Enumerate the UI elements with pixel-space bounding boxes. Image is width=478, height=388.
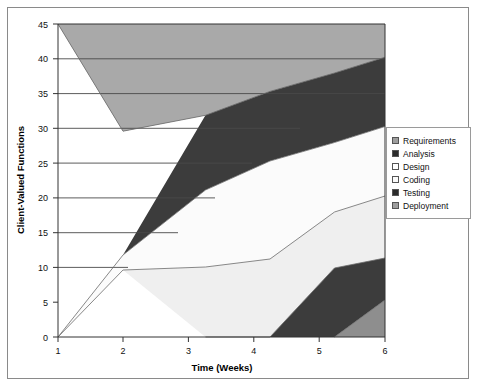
legend-label: Analysis [403,149,435,159]
legend-label: Design [403,162,429,172]
legend-swatch-icon [392,202,399,209]
y-tick-label: 5 [43,298,48,308]
legend-label: Deployment [403,201,448,211]
x-tick-label: 6 [382,346,387,356]
y-tick-label: 20 [38,193,48,203]
y-tick-label: 35 [38,89,48,99]
legend-swatch-icon [392,150,399,157]
legend-label: Requirements [403,136,456,146]
y-axis-tick-labels: 45 40 35 30 25 20 15 10 5 0 [38,20,48,343]
y-axis-title: Client-Valued Functions [15,126,26,234]
legend-item-requirements[interactable]: Requirements [392,135,466,146]
x-tick-label: 2 [120,346,125,356]
y-tick-label: 25 [38,159,48,169]
x-axis-tick-labels: 1 2 3 4 5 6 [55,346,387,356]
legend-item-testing[interactable]: Testing [392,187,466,198]
x-tick-label: 1 [55,346,60,356]
legend-swatch-icon [392,176,399,183]
x-axis-title: Time (Weeks) [192,362,253,373]
y-tick-label: 45 [38,20,48,30]
x-tick-label: 4 [251,346,256,356]
y-tick-label: 30 [38,124,48,134]
legend-item-analysis[interactable]: Analysis [392,148,466,159]
legend-swatch-icon [392,189,399,196]
chart-series-group [58,24,385,337]
x-tick-label: 5 [317,346,322,356]
legend-item-coding[interactable]: Coding [392,174,466,185]
legend-swatch-icon [392,137,399,144]
legend-item-deployment[interactable]: Deployment [392,200,466,211]
y-tick-label: 15 [38,228,48,238]
legend-label: Coding [403,175,430,185]
y-tick-label: 10 [38,263,48,273]
x-axis-ticks [58,337,385,342]
y-axis-ticks [53,24,58,337]
chart-legend: Requirements Analysis Design Coding Test… [386,127,471,219]
y-tick-label: 0 [43,333,48,343]
legend-swatch-icon [392,163,399,170]
y-tick-label: 40 [38,54,48,64]
legend-label: Testing [403,188,430,198]
legend-item-design[interactable]: Design [392,161,466,172]
x-tick-label: 3 [186,346,191,356]
